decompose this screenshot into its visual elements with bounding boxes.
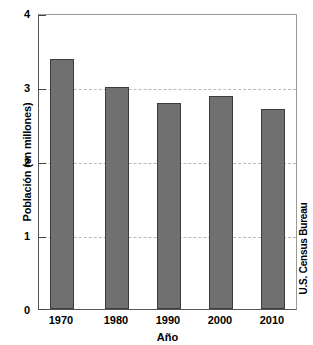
x-tick-label-1990: 1990 <box>140 315 196 326</box>
y-tick-0 <box>39 309 46 310</box>
y-tick-1 <box>39 237 46 238</box>
x-axis-title: Año <box>38 332 297 343</box>
y-tick-label-1: 1 <box>4 231 30 242</box>
plot-area <box>38 14 297 310</box>
y-tick-2 <box>39 163 46 164</box>
y-tick-3 <box>39 89 46 90</box>
bar-chart: Población (en millones) U.S. Census Bure… <box>0 0 313 345</box>
source-annotation: U.S. Census Bureau <box>298 159 309 339</box>
y-tick-label-3: 3 <box>4 83 30 94</box>
x-tick-label-2010: 2010 <box>244 315 300 326</box>
y-tick-label-0: 0 <box>4 305 30 316</box>
x-tick-label-1980: 1980 <box>88 315 144 326</box>
bar-1990[interactable] <box>157 103 181 309</box>
x-tick-label-2000: 2000 <box>192 315 248 326</box>
bar-2000[interactable] <box>209 96 233 309</box>
bar-1980[interactable] <box>105 87 129 309</box>
y-tick-4 <box>39 15 46 16</box>
y-tick-label-2: 2 <box>4 157 30 168</box>
bar-2010[interactable] <box>261 109 285 309</box>
y-tick-label-4: 4 <box>4 9 30 20</box>
gridline-3 <box>39 89 296 90</box>
bar-1970[interactable] <box>50 59 74 309</box>
x-tick-label-1970: 1970 <box>33 315 89 326</box>
